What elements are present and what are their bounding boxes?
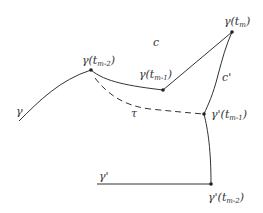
curve-gamma-prime-vertical <box>204 114 211 184</box>
label-gamma-t-m-1: γ(tm-1) <box>139 68 172 82</box>
label-gamma-t-m-2: γ(tm-2) <box>82 54 115 68</box>
diagram-svg: γ γ' c c' τ γ(tm-2) γ(tm-1) γ(tm) γ'(tm-… <box>0 0 263 213</box>
label-gamma-prime-t-m-2: γ'(tm-2) <box>208 191 244 205</box>
point-gamma-t-m-2 <box>89 68 93 72</box>
point-gamma-prime-t-m-1 <box>202 112 206 116</box>
label-gamma-prime-t-m-1: γ'(tm-1) <box>211 108 247 122</box>
label-tau: τ <box>131 107 138 120</box>
point-gamma-t-m-1 <box>161 88 165 92</box>
label-c-prime: c' <box>222 71 231 84</box>
label-gamma-prime: γ' <box>99 170 109 183</box>
point-gamma-t-m <box>230 30 234 34</box>
curve-tau <box>95 78 204 114</box>
label-gamma-t-m: γ(tm) <box>224 15 250 29</box>
label-c: c <box>153 36 159 49</box>
label-gamma: γ <box>16 105 23 118</box>
point-gamma-prime-t-m-2 <box>209 182 213 186</box>
diagram-canvas: γ γ' c c' τ γ(tm-2) γ(tm-1) γ(tm) γ'(tm-… <box>0 0 263 213</box>
curve-gamma <box>19 70 91 121</box>
